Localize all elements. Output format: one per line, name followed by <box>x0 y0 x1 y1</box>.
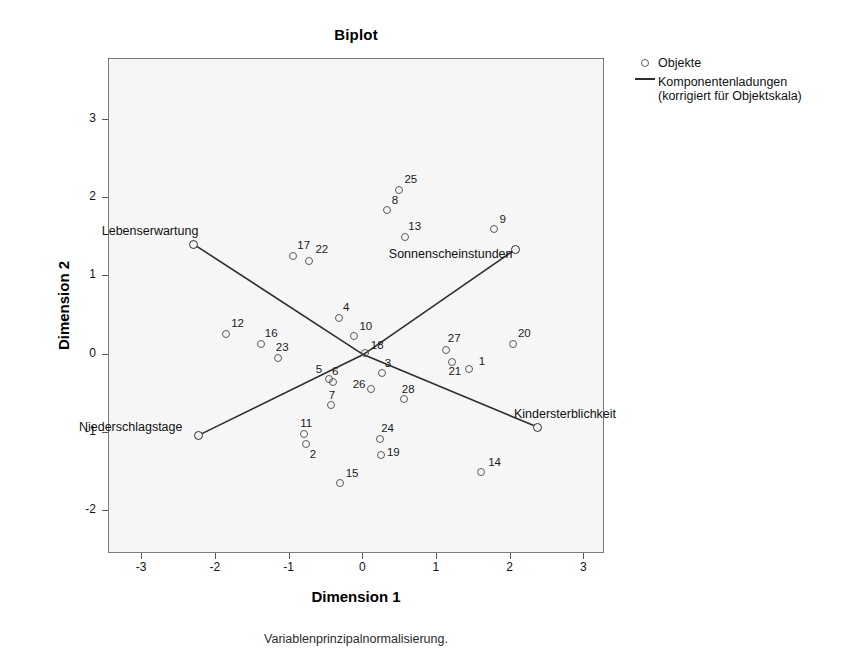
legend-label-line2: (korrigiert für Objektskala) <box>658 89 802 103</box>
x-tick-label: -1 <box>274 560 304 574</box>
y-axis-title-wrap: Dimension 2 <box>20 0 21 659</box>
object-point-label: 14 <box>488 456 501 468</box>
x-tick-label: 2 <box>495 560 525 574</box>
circle-marker-icon <box>632 56 658 67</box>
line-marker-icon <box>632 75 658 80</box>
object-point[interactable] <box>509 340 517 348</box>
object-point-label: 27 <box>448 332 461 344</box>
object-point-label: 18 <box>371 339 384 351</box>
object-point-label: 17 <box>297 239 310 251</box>
y-tick <box>102 119 108 120</box>
y-tick <box>102 432 108 433</box>
object-point[interactable] <box>465 365 473 373</box>
object-point-label: 10 <box>359 320 372 332</box>
object-point[interactable] <box>377 451 385 459</box>
loading-vector-endpoint[interactable] <box>533 423 542 432</box>
object-point[interactable] <box>327 401 335 409</box>
x-tick <box>289 553 290 559</box>
object-point[interactable] <box>289 252 297 260</box>
x-tick-label: -2 <box>200 560 230 574</box>
object-point-label: 28 <box>402 383 415 395</box>
object-point[interactable] <box>222 330 230 338</box>
object-point-label: 3 <box>385 357 391 369</box>
object-point-label: 13 <box>408 220 421 232</box>
chart-footnote: Variablenprinzipalnormalisierung. <box>108 632 604 646</box>
loading-vector-line <box>363 249 516 355</box>
object-point[interactable] <box>350 332 358 340</box>
object-point[interactable] <box>383 206 391 214</box>
x-tick-label: -3 <box>126 560 156 574</box>
y-tick-label: 3 <box>72 111 96 125</box>
loading-vector-endpoint[interactable] <box>194 431 203 440</box>
object-point[interactable] <box>378 369 386 377</box>
object-point[interactable] <box>300 430 308 438</box>
object-point-label: 19 <box>387 446 400 458</box>
object-point[interactable] <box>305 257 313 265</box>
object-point-label: 24 <box>381 422 394 434</box>
legend-label-komponentenladungen: Komponentenladungen (korrigiert für Obje… <box>658 75 802 103</box>
x-tick <box>436 553 437 559</box>
x-tick <box>215 553 216 559</box>
y-tick-label: 1 <box>72 267 96 281</box>
object-point-label: 23 <box>276 341 289 353</box>
object-point[interactable] <box>395 186 403 194</box>
y-tick <box>102 275 108 276</box>
object-point-label: 16 <box>265 327 278 339</box>
object-point-label: 1 <box>479 355 485 367</box>
object-point-label: 22 <box>315 243 328 255</box>
y-tick-label: -2 <box>72 502 96 516</box>
y-axis-title: Dimension 2 <box>55 206 72 406</box>
loading-vector-label: Kindersterblichkeit <box>514 407 616 421</box>
y-tick-label: 2 <box>72 189 96 203</box>
y-tick <box>102 510 108 511</box>
object-point[interactable] <box>376 435 384 443</box>
object-point-label: 21 <box>448 365 461 377</box>
object-point[interactable] <box>442 346 450 354</box>
x-axis-title: Dimension 1 <box>108 588 604 605</box>
object-point-label: 11 <box>300 417 312 429</box>
x-tick <box>510 553 511 559</box>
object-point[interactable] <box>302 440 310 448</box>
plot-canvas: LebenserwartungSonnenscheinstundenNieder… <box>109 59 603 552</box>
object-point[interactable] <box>401 233 409 241</box>
loading-vector-line <box>194 244 364 354</box>
x-tick-label: 3 <box>568 560 598 574</box>
legend-item-komponentenladungen: Komponentenladungen (korrigiert für Obje… <box>632 75 862 103</box>
biplot-page: Biplot LebenserwartungSonnenscheinstunde… <box>0 0 868 659</box>
object-point-label: 12 <box>231 317 244 329</box>
loading-vector-label: Lebenserwartung <box>102 224 199 238</box>
object-point[interactable] <box>361 349 369 357</box>
y-tick-label: -1 <box>72 424 96 438</box>
object-point[interactable] <box>367 385 375 393</box>
x-tick <box>362 553 363 559</box>
loading-vector-line <box>199 355 363 436</box>
object-point-label: 15 <box>346 467 359 479</box>
x-tick-label: 1 <box>421 560 451 574</box>
object-point[interactable] <box>336 479 344 487</box>
legend-label-objekte: Objekte <box>658 56 701 70</box>
object-point[interactable] <box>257 340 265 348</box>
legend: Objekte Komponentenladungen (korrigiert … <box>632 56 862 108</box>
x-tick-label: 0 <box>347 560 377 574</box>
object-point-label: 8 <box>392 194 398 206</box>
plot-area: LebenserwartungSonnenscheinstundenNieder… <box>108 58 604 553</box>
y-tick-label: 0 <box>72 346 96 360</box>
x-tick <box>583 553 584 559</box>
loading-vector-endpoint[interactable] <box>189 240 198 249</box>
object-point[interactable] <box>477 468 485 476</box>
y-tick <box>102 354 108 355</box>
object-point-label: 25 <box>404 173 417 185</box>
object-point-label: 26 <box>353 378 366 390</box>
object-point-label: 9 <box>499 213 505 225</box>
object-point-label: 4 <box>343 301 349 313</box>
object-point[interactable] <box>400 395 408 403</box>
object-point[interactable] <box>335 314 343 322</box>
object-point-label: 2 <box>310 448 316 460</box>
object-point[interactable] <box>329 378 337 386</box>
object-point[interactable] <box>274 354 282 362</box>
object-point[interactable] <box>490 225 498 233</box>
legend-label-line1: Komponentenladungen <box>658 75 787 89</box>
object-point-label: 7 <box>329 389 335 401</box>
object-point-label: 6 <box>332 365 338 377</box>
x-tick <box>141 553 142 559</box>
